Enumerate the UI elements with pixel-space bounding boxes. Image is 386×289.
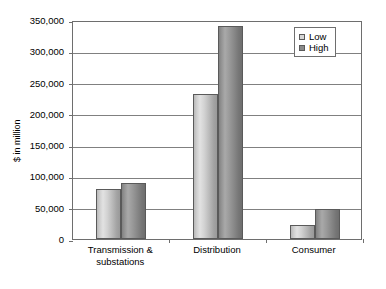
x-tick-mark xyxy=(169,239,170,243)
y-tick-label: 100,000 xyxy=(30,172,64,182)
gridline xyxy=(73,84,361,85)
chart-legend: LowHigh xyxy=(294,27,336,57)
y-tick-label: 350,000 xyxy=(30,16,64,26)
legend-item-high: High xyxy=(299,42,329,53)
x-category-label: Transmission & substations xyxy=(72,244,169,267)
y-tick-label: 0 xyxy=(59,235,64,245)
y-tick-mark xyxy=(69,84,73,85)
y-tick-mark xyxy=(69,209,73,210)
x-category-label: Consumer xyxy=(265,244,362,256)
bar-high-2 xyxy=(315,209,340,239)
bar-high-1 xyxy=(218,26,243,239)
y-axis-tick-labels: 050,000100,000150,000200,000250,000300,0… xyxy=(20,0,68,289)
legend-item-low: Low xyxy=(299,31,329,42)
x-axis-category-labels: Transmission & substationsDistributionCo… xyxy=(72,244,362,284)
legend-swatch-icon xyxy=(299,34,305,40)
bar-chart: $ in million 050,000100,000150,000200,00… xyxy=(0,0,386,289)
legend-label: High xyxy=(309,42,329,53)
bar-low-2 xyxy=(290,225,315,239)
y-tick-mark xyxy=(69,53,73,54)
x-tick-mark xyxy=(363,239,364,243)
y-tick-label: 50,000 xyxy=(35,204,64,214)
legend-label: Low xyxy=(309,31,326,42)
y-tick-label: 300,000 xyxy=(30,47,64,57)
x-tick-mark xyxy=(266,239,267,243)
y-tick-mark xyxy=(69,241,73,242)
y-tick-mark xyxy=(69,147,73,148)
y-tick-mark xyxy=(69,115,73,116)
y-tick-label: 250,000 xyxy=(30,79,64,89)
bar-high-0 xyxy=(121,183,146,239)
y-tick-label: 150,000 xyxy=(30,141,64,151)
legend-swatch-icon xyxy=(299,45,305,51)
y-tick-label: 200,000 xyxy=(30,110,64,120)
y-tick-mark xyxy=(69,22,73,23)
bar-low-1 xyxy=(193,94,218,239)
y-tick-mark xyxy=(69,178,73,179)
bar-low-0 xyxy=(96,189,121,239)
x-category-label: Distribution xyxy=(169,244,266,256)
